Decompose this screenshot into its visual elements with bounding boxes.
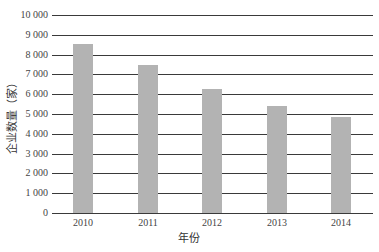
y-tick-label: 0 — [2, 207, 48, 219]
bar-2012 — [202, 89, 222, 213]
bar-chart: 01 0002 0003 0004 0005 0006 0007 0008 00… — [0, 0, 379, 252]
bar-2011 — [138, 65, 158, 213]
y-axis-label: 企业数量（家） — [3, 75, 19, 155]
y-tick-label: 9 000 — [2, 29, 48, 41]
y-tick-label: 2 000 — [2, 167, 48, 179]
x-tick-label: 2014 — [321, 217, 361, 229]
x-axis-label: 年份 — [178, 232, 200, 245]
gridline — [52, 15, 373, 16]
y-tick-label: 10 000 — [2, 9, 48, 21]
gridline — [52, 55, 373, 56]
y-tick-label: 1 000 — [2, 187, 48, 199]
y-tick-label: 8 000 — [2, 49, 48, 61]
x-tick-label: 2013 — [257, 217, 297, 229]
bar-2010 — [73, 44, 93, 213]
bar-2013 — [267, 106, 287, 213]
x-tick-label: 2011 — [128, 217, 168, 229]
gridline — [52, 213, 373, 214]
gridline — [52, 35, 373, 36]
x-tick-label: 2010 — [63, 217, 103, 229]
bar-2014 — [331, 117, 351, 213]
gridline — [52, 74, 373, 75]
x-tick-label: 2012 — [192, 217, 232, 229]
